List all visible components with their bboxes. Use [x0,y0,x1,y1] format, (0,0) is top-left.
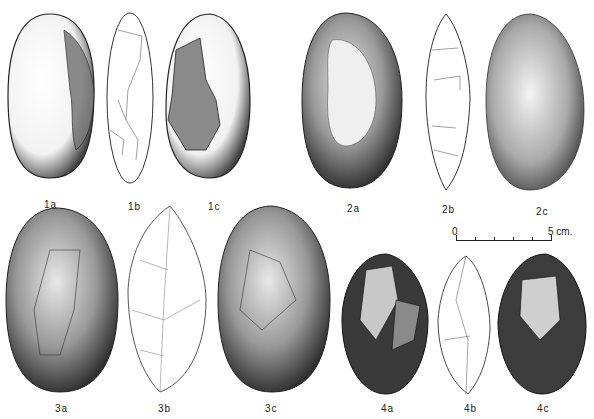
scale-tick [475,237,476,241]
label-2c: 2c [536,206,549,217]
artifact-4b [438,256,490,394]
label-2a: 2a [347,203,360,214]
label-4a: 4a [381,403,394,414]
artifact-4a [342,254,428,394]
artifact-plate [0,0,594,419]
label-1c: 1c [208,201,221,212]
scale-tick [532,237,533,241]
label-3a: 3a [55,403,68,414]
artifact-2c [486,14,584,190]
label-4b: 4b [464,403,477,414]
label-1b: 1b [128,201,141,212]
artifact-3b [128,206,206,392]
artifact-1b [107,13,153,183]
artifact-2b [426,14,470,190]
artifact-2a [302,13,402,188]
label-1a: 1a [44,199,57,210]
scale-bar: 0 5 cm. [452,226,562,248]
scale-tick [513,237,514,241]
label-3b: 3b [158,403,171,414]
label-4c: 4c [537,403,550,414]
artifact-4c [498,254,586,394]
scale-tick [456,235,457,241]
artifact-1c [166,14,250,178]
artifact-1a [8,14,94,178]
scale-line [456,240,552,241]
label-3c: 3c [265,403,278,414]
scale-tick [551,235,552,241]
artifact-3c [218,206,330,392]
label-2b: 2b [442,204,455,215]
scale-tick [494,237,495,241]
artifact-3a [6,208,118,392]
